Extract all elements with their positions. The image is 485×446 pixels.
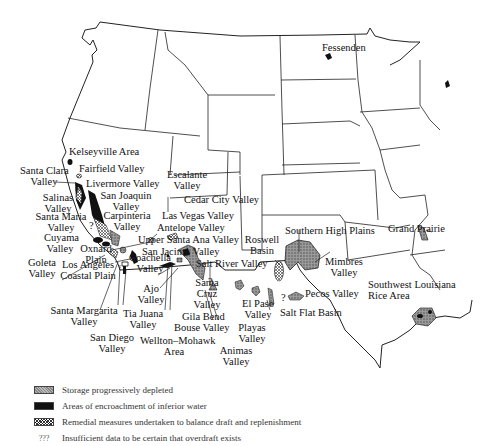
label-santa-maria: Santa MariaValley bbox=[35, 211, 87, 233]
legend-item-encroachment: Areas of encroachment of inferior water bbox=[34, 400, 207, 412]
label-kelseyville: Kelseyville Area bbox=[69, 146, 139, 157]
label-cedar-city: Cedar City Valley bbox=[184, 194, 259, 205]
label-pecos: Pecos Valley bbox=[305, 288, 359, 299]
question-mark-1: ? bbox=[89, 220, 94, 231]
solid-black-swatch-icon bbox=[34, 402, 54, 410]
label-salt-river: Salt River Valley bbox=[196, 258, 268, 269]
label-mimbres: MimbresValley bbox=[324, 256, 364, 278]
label-goleta: GoletaValley bbox=[26, 257, 58, 279]
label-bouse: Bouse Valley bbox=[174, 322, 230, 333]
question-mark-2: ? bbox=[208, 276, 213, 287]
label-playas: PlayasValley bbox=[236, 322, 268, 344]
label-southern-high-plains: Southern High Plains bbox=[285, 225, 375, 236]
label-santa-clara: Santa ClaraValley bbox=[20, 165, 68, 187]
map-legend: Storage progressively depleted Areas of … bbox=[0, 380, 485, 446]
question-marks-icon: ??? bbox=[34, 434, 54, 443]
label-santa-margarita: Santa MargaritaValley bbox=[50, 305, 118, 327]
crosshatch-swatch-icon bbox=[34, 418, 54, 426]
label-animas: AnimasValley bbox=[218, 345, 254, 367]
label-tia-juana: Tia JuanaValley bbox=[122, 308, 164, 330]
label-grand-prairie: Grand Prairie bbox=[388, 223, 445, 234]
label-salt-flat: Salt Flat Basin bbox=[280, 307, 342, 318]
label-wellton-mohawk: Wellton–MohawkArea bbox=[140, 335, 208, 357]
label-las-vegas: Las Vegas Valley bbox=[162, 210, 234, 221]
michigan-area bbox=[445, 80, 450, 88]
fessenden-area bbox=[325, 53, 332, 60]
label-cuyama: CuyamaValley bbox=[44, 232, 76, 254]
label-escalante: EscalanteValley bbox=[164, 169, 210, 191]
question-mark-3: ? bbox=[281, 292, 286, 303]
label-sw-louisiana: Southwest LouisianaRice Area bbox=[368, 279, 456, 301]
label-roswell: RoswellBasin bbox=[244, 234, 280, 256]
label-fairfield: Fairfield Valley bbox=[79, 163, 144, 174]
label-gila-bend: Gila Bend bbox=[182, 311, 225, 322]
label-ajo: AjoValley bbox=[136, 283, 166, 305]
legend-item-depleted: Storage progressively depleted bbox=[34, 384, 173, 396]
label-upper-santa-ana: Upper Santa Ana Valley bbox=[138, 234, 239, 245]
label-fessenden: Fessenden bbox=[322, 42, 366, 53]
label-coachella: CoachellaValley bbox=[128, 252, 172, 274]
label-san-diego: San DiegoValley bbox=[90, 332, 134, 354]
label-livermore: Livermore Valley bbox=[86, 178, 160, 189]
label-carpinteria: CarpinteriaValley bbox=[102, 210, 152, 232]
label-san-joaquin: San JoaquinValley bbox=[96, 190, 156, 212]
label-el-paso: El PasoValley bbox=[240, 298, 276, 320]
legend-item-remedial: Remedial measures undertaken to balance … bbox=[34, 416, 301, 428]
legend-item-insufficient: ??? Insufficient data to be certain that… bbox=[34, 432, 241, 444]
label-santa-cruz: SantaCruzValley bbox=[192, 277, 222, 310]
hatched-swatch-icon bbox=[34, 386, 54, 394]
label-los-angeles: Los AngelesCoastal Plain bbox=[60, 259, 116, 281]
label-antelope: Antelope Valley bbox=[157, 222, 225, 233]
